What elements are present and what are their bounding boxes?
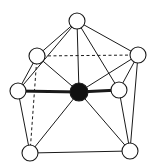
bond-top-upper-right — [77, 21, 138, 55]
bond-upper-right-bottom-right — [130, 55, 138, 151]
bond-top-center — [77, 21, 79, 92]
ligand-atom-bottom-right — [122, 143, 138, 159]
ligand-atom-upper-left — [29, 48, 45, 64]
bond-center-bottom-right — [79, 92, 130, 151]
ligand-atom-top — [69, 13, 85, 29]
bond-upper-left-bottom-left — [30, 56, 37, 153]
bond-upper-left-upper-right — [37, 55, 138, 56]
bond-right-bottom-right — [119, 90, 130, 151]
bond-top-left — [18, 21, 77, 91]
ligand-atom-left — [10, 83, 26, 99]
bond-upper-right-center — [79, 55, 138, 92]
atoms — [10, 13, 146, 161]
molecular-geometry-diagram — [0, 0, 156, 165]
central-atom — [70, 83, 88, 101]
bond-center-bottom-left — [30, 92, 79, 153]
ligand-atom-bottom-left — [22, 145, 38, 161]
ligand-atom-upper-right — [130, 47, 146, 63]
bond-bottom-left-bottom-right — [30, 151, 130, 153]
bond-left-bottom-left — [18, 91, 30, 153]
ligand-atom-right — [111, 82, 127, 98]
